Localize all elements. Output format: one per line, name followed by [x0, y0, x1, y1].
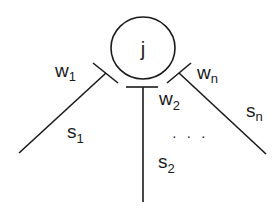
input-label-n: sn: [246, 100, 263, 124]
input-label-2: s2: [158, 151, 175, 176]
input-1-base: s: [67, 121, 77, 142]
weight-1-base: w: [54, 60, 69, 81]
weight-label-n: wn: [196, 62, 218, 86]
input-1-sub: 1: [77, 131, 84, 146]
connection-2: w2 s2: [126, 87, 180, 202]
weight-n-base: w: [196, 62, 211, 83]
input-n-base: s: [246, 100, 256, 121]
node-label: j: [140, 38, 145, 60]
input-label-1: s1: [67, 121, 84, 146]
weight-2-sub: 2: [173, 98, 180, 113]
input-line-1: [19, 73, 106, 153]
weight-2-base: w: [158, 88, 173, 109]
input-n-sub: n: [256, 109, 263, 124]
weight-1-sub: 1: [69, 69, 76, 84]
weight-label-2: w2: [158, 88, 180, 113]
node-j: j: [111, 17, 175, 79]
input-2-base: s: [158, 151, 168, 172]
connection-1: w1 s1: [19, 60, 118, 153]
input-2-sub: 2: [168, 161, 175, 176]
weight-label-1: w1: [54, 60, 76, 84]
weight-n-sub: n: [211, 71, 218, 86]
ellipsis: · · ·: [172, 128, 209, 144]
neuron-diagram: j w1 s1 w2 s2 · · · wn sn: [0, 0, 280, 212]
